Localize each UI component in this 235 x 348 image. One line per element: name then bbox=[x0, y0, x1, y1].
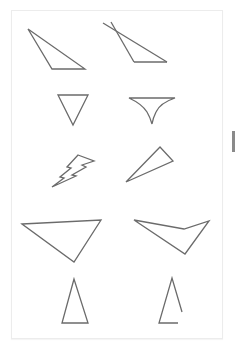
shape-thin-triangle bbox=[126, 147, 173, 182]
shape-2-long-side bbox=[103, 23, 167, 62]
shape-obtuse-triangle bbox=[28, 29, 85, 69]
shape-lightning-bolt bbox=[52, 155, 94, 187]
shapes-canvas bbox=[0, 0, 235, 348]
shape-tall-isosceles-triangle bbox=[62, 279, 88, 323]
shape-inverted-triangle bbox=[58, 95, 88, 125]
worksheet-page bbox=[0, 0, 235, 348]
shape-triangle-crossing-overshoot bbox=[103, 22, 167, 62]
shape-funnel bbox=[129, 98, 175, 124]
shape-open-triangle bbox=[159, 278, 182, 323]
shape-large-obtuse-triangle bbox=[22, 220, 101, 262]
shape-concave-quadrilateral bbox=[134, 220, 209, 254]
shape-2-short-side bbox=[111, 22, 134, 62]
